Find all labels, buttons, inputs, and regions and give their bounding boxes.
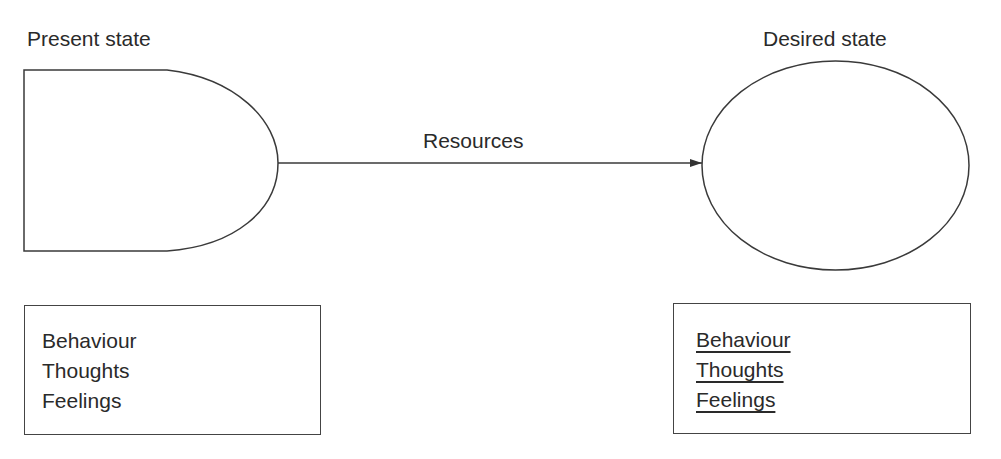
desired-state-shape bbox=[702, 61, 969, 270]
resources-label: Resources bbox=[423, 130, 523, 151]
present-state-title: Present state bbox=[27, 28, 151, 49]
desired-item-feelings: Feelings bbox=[696, 385, 775, 415]
present-item-behaviour: Behaviour bbox=[42, 326, 137, 356]
present-item-feelings: Feelings bbox=[42, 386, 137, 416]
desired-state-list: Behaviour Thoughts Feelings bbox=[696, 325, 791, 415]
present-state-shape bbox=[24, 70, 278, 251]
present-state-list: Behaviour Thoughts Feelings bbox=[42, 326, 137, 416]
desired-item-behaviour: Behaviour bbox=[696, 325, 791, 355]
desired-item-thoughts: Thoughts bbox=[696, 355, 784, 385]
present-item-thoughts: Thoughts bbox=[42, 356, 137, 386]
desired-state-title: Desired state bbox=[763, 28, 887, 49]
